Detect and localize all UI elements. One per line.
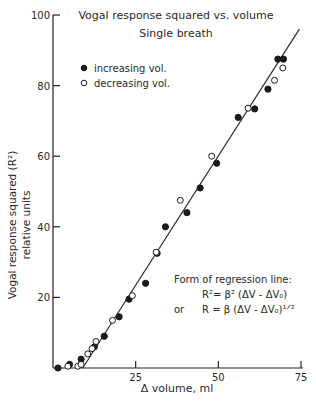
y-tick-label: 100 bbox=[31, 10, 50, 21]
open-point bbox=[280, 65, 286, 71]
x-axis-label: Δ volume, ml bbox=[141, 382, 214, 395]
open-point bbox=[153, 249, 159, 255]
open-point bbox=[177, 197, 183, 203]
tick-labels: 20406080100255075 bbox=[31, 10, 307, 383]
chart-title: Vogal response squared vs. volume bbox=[78, 9, 273, 22]
filled-point bbox=[280, 56, 286, 62]
open-point bbox=[245, 105, 251, 111]
regression-annotation: Form of regression line: R²= β² (ΔV - ΔV… bbox=[174, 274, 295, 315]
legend-label: increasing vol. bbox=[94, 63, 167, 74]
open-point bbox=[110, 317, 116, 323]
legend-label: decreasing vol. bbox=[94, 78, 170, 89]
legend: increasing vol.decreasing vol. bbox=[81, 63, 170, 89]
scatter-chart: 20406080100255075 Vogal response squared… bbox=[0, 0, 316, 404]
y-tick-label: 80 bbox=[37, 81, 50, 92]
filled-point bbox=[116, 314, 122, 320]
svg-text:relative units: relative units bbox=[20, 191, 32, 260]
svg-text:or: or bbox=[174, 304, 185, 315]
open-circle-icon bbox=[81, 80, 87, 86]
y-axis-label: Vogal response squared (R²) relative uni… bbox=[6, 151, 32, 300]
open-point bbox=[78, 361, 84, 367]
svg-text:R²= β² (ΔV - ΔV₀): R²= β² (ΔV - ΔV₀) bbox=[202, 289, 287, 300]
filled-circle-icon bbox=[81, 65, 87, 71]
chart-subtitle: Single breath bbox=[139, 27, 212, 40]
filled-point bbox=[142, 280, 148, 286]
svg-text:Vogal response squared (R²): Vogal response squared (R²) bbox=[6, 151, 18, 300]
filled-point bbox=[197, 185, 203, 191]
filled-point bbox=[214, 160, 220, 166]
open-point bbox=[85, 351, 91, 357]
y-tick-label: 60 bbox=[37, 151, 50, 162]
y-tick-label: 40 bbox=[37, 222, 50, 233]
y-tick-label: 20 bbox=[37, 292, 50, 303]
filled-point bbox=[55, 365, 61, 371]
x-tick-label: 75 bbox=[295, 372, 308, 383]
svg-text:R = β (ΔV - ΔV₀)¹ᐟ²: R = β (ΔV - ΔV₀)¹ᐟ² bbox=[202, 304, 295, 315]
filled-point bbox=[184, 210, 190, 216]
filled-point bbox=[101, 333, 107, 339]
open-point bbox=[93, 339, 99, 345]
open-point bbox=[272, 77, 278, 83]
open-point bbox=[209, 153, 215, 159]
filled-point bbox=[265, 86, 271, 92]
open-point bbox=[89, 346, 95, 352]
open-point bbox=[129, 293, 135, 299]
svg-text:Form of regression line:: Form of regression line: bbox=[174, 274, 292, 285]
filled-point bbox=[235, 114, 241, 120]
filled-point bbox=[252, 106, 258, 112]
filled-point bbox=[162, 224, 168, 230]
axes bbox=[53, 15, 303, 368]
open-point bbox=[65, 363, 71, 369]
x-tick-label: 50 bbox=[212, 372, 225, 383]
